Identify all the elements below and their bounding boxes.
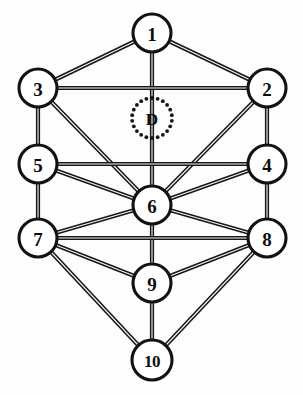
tree-of-life-diagram: D 12345678910 [0,0,303,395]
daath-ring-dot [156,135,160,139]
daath-ring-dot [132,108,136,112]
edge-core [152,88,267,205]
edge-core [38,238,152,360]
node-label-9: 9 [147,274,157,295]
node-label-7: 7 [33,229,43,250]
daath-ring-dot [139,133,143,137]
daath-ring-dot [135,103,139,107]
daath-ring-dot [168,108,172,112]
tree-graph-canvas: D 12345678910 [0,0,303,395]
node-2[interactable]: 2 [248,69,286,107]
node-label-10: 10 [144,352,160,371]
daath-ring-dot [130,119,134,123]
node-label-4: 4 [262,155,272,176]
node-label-8: 8 [262,229,272,250]
edge-3-6 [38,88,152,205]
node-10[interactable]: 10 [132,340,172,380]
edge-core [38,88,152,205]
daath-label: D [146,110,158,129]
node-label-2: 2 [262,79,272,100]
daath-ring-dot [130,113,134,117]
daath-ring-dot [161,133,165,137]
edge-2-6 [152,88,267,205]
daath-ring-dot [135,129,139,133]
node-8[interactable]: 8 [248,219,286,257]
edge-7-10 [38,238,152,360]
node-label-3: 3 [33,79,43,100]
daath-ring-dot [168,124,172,128]
edge-8-10 [152,238,267,360]
daath-ring-dot [150,136,154,140]
node-5[interactable]: 5 [19,145,57,183]
node-label-6: 6 [147,196,157,217]
daath-ring-dot [165,103,169,107]
node-7[interactable]: 7 [19,219,57,257]
node-1[interactable]: 1 [133,14,171,52]
node-4[interactable]: 4 [248,145,286,183]
node-3[interactable]: 3 [19,69,57,107]
node-6[interactable]: 6 [133,186,171,224]
node-9[interactable]: 9 [133,264,171,302]
daath-ring-dot [132,124,136,128]
daath-ring-dot [161,99,165,103]
node-label-5: 5 [33,155,43,176]
edge-core [152,238,267,360]
daath-ring-dot [170,113,174,117]
daath-ring-dot [165,129,169,133]
daath-ring-dot [156,97,160,101]
daath-ring-dot [170,119,174,123]
daath-ring-dot [150,96,154,100]
daath-ring-dot [144,97,148,101]
node-label-1: 1 [147,24,157,45]
daath-ring-dot [144,135,148,139]
daath-ring-dot [139,99,143,103]
